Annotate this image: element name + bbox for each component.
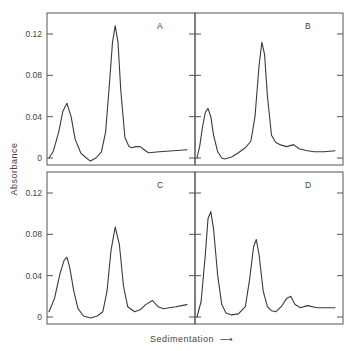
y-tick-label: 0.12 — [25, 29, 42, 39]
panel-frame — [195, 13, 343, 165]
absorbance-trace — [49, 26, 187, 161]
panel-label: A — [157, 21, 163, 31]
absorbance-trace — [49, 227, 187, 318]
panel-D: D — [195, 172, 343, 324]
panel-label: D — [305, 180, 311, 190]
x-axis-label: Sedimentation⟶ — [150, 334, 233, 344]
panel-C: 00.040.080.12C — [25, 172, 195, 324]
y-tick-label: 0.04 — [25, 112, 42, 122]
panel-B: B — [195, 13, 343, 165]
panel-frame — [47, 172, 195, 324]
y-tick-label: 0.04 — [25, 271, 42, 281]
y-tick-label: 0.08 — [25, 229, 42, 239]
panel-label: B — [305, 21, 311, 31]
y-tick-label: 0.08 — [25, 70, 42, 80]
panel-A: 00.040.080.12A — [25, 13, 195, 165]
panel-frame — [195, 172, 343, 324]
x-axis-label-text: Sedimentation — [150, 334, 214, 344]
y-tick-label: 0 — [37, 312, 42, 322]
absorbance-trace — [197, 42, 335, 159]
chart-panels: 00.040.080.12A B 00.040.080.12C D — [0, 0, 352, 351]
y-tick-label: 0.12 — [25, 188, 42, 198]
panel-label: C — [157, 180, 163, 190]
absorbance-trace — [197, 212, 335, 317]
y-axis-label: Absorbance — [9, 139, 19, 199]
arrow-right-icon: ⟶ — [220, 334, 233, 344]
figure: 00.040.080.12A B 00.040.080.12C D Absorb… — [0, 0, 352, 351]
y-tick-label: 0 — [37, 153, 42, 163]
